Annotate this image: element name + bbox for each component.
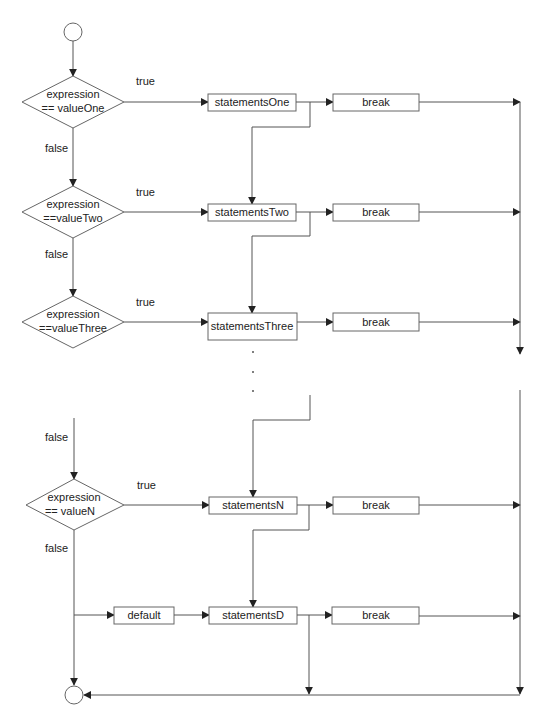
fallthrough-n-arrow xyxy=(253,505,309,607)
condition-three-line2: ==valueThree xyxy=(39,322,107,334)
false-label-two: false xyxy=(45,248,68,260)
case-one: expression == valueOne true statementsOn… xyxy=(22,75,520,204)
statements-one-label: statementsOne xyxy=(215,96,290,108)
condition-n-line1: expression xyxy=(47,491,100,503)
default-case: default statementsD break xyxy=(74,607,520,694)
ellipsis-dot xyxy=(252,371,254,373)
ellipsis-dot xyxy=(252,390,254,392)
fallthrough-one-arrow xyxy=(252,102,310,204)
start-node xyxy=(64,23,82,41)
statements-three-label: statementsThree xyxy=(211,320,294,332)
break-one-label: break xyxy=(362,96,390,108)
break-d-label: break xyxy=(362,609,390,621)
true-label-one: true xyxy=(136,75,155,87)
condition-one-line1: expression xyxy=(46,88,99,100)
case-two: expression ==valueTwo true statementsTwo… xyxy=(22,186,520,313)
condition-one-line2: == valueOne xyxy=(42,102,105,114)
condition-n-line2: == valueN xyxy=(45,505,95,517)
statements-two-label: statementsTwo xyxy=(215,206,289,218)
end-node xyxy=(65,686,83,704)
switch-flowchart: expression == valueOne true statementsOn… xyxy=(0,0,542,717)
ellipsis xyxy=(252,351,254,392)
false-label-incoming-n: false xyxy=(45,431,68,443)
ellipsis-dot xyxy=(252,351,254,353)
condition-two-line2: ==valueTwo xyxy=(43,212,102,224)
break-three-label: break xyxy=(362,316,390,328)
statements-d-label: statementsD xyxy=(222,609,284,621)
true-label-two: true xyxy=(136,186,155,198)
default-label: default xyxy=(127,609,160,621)
true-label-three: true xyxy=(136,296,155,308)
true-label-n: true xyxy=(137,479,156,491)
condition-two-line1: expression xyxy=(46,198,99,210)
fallthrough-into-n-arrow xyxy=(253,395,310,497)
false-label-one: false xyxy=(45,142,68,154)
case-n: false expression == valueN true statemen… xyxy=(26,395,520,607)
condition-three-line1: expression xyxy=(46,308,99,320)
case-three: expression ==valueThree true statementsT… xyxy=(22,296,520,348)
break-n-label: break xyxy=(362,499,390,511)
break-two-label: break xyxy=(362,206,390,218)
statements-n-label: statementsN xyxy=(222,499,284,511)
false-label-n: false xyxy=(45,542,68,554)
fallthrough-two-arrow xyxy=(252,212,310,313)
